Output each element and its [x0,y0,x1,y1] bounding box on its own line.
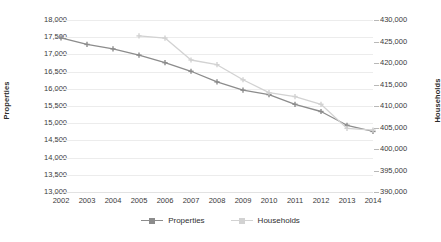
y-axis-left-tick-mark [55,106,60,107]
y-axis-left-tick-mark [55,192,60,193]
y-axis-left-tick-mark [55,54,60,55]
y-axis-left-tick-mark [55,89,60,90]
data-point-marker [84,42,89,47]
y-axis-right-tick-label: 430,000 [380,16,407,24]
legend-item-households[interactable]: Households [231,216,300,225]
data-point-marker [162,60,167,65]
y-axis-right-tick-mark [374,85,379,86]
data-point-marker [240,88,245,93]
y-axis-left-tick-mark [55,158,60,159]
chart-legend: PropertiesHouseholds [0,216,441,225]
series-households [136,33,375,132]
data-point-marker [240,77,245,82]
x-axis-tick-label: 2014 [353,197,393,205]
y-axis-left-tick-mark [55,175,60,176]
y-axis-right-tick-label: 400,000 [380,145,407,153]
y-axis-right-tick-mark [374,63,379,64]
legend-label: Properties [168,216,204,225]
y-axis-right-title: Households [433,71,441,131]
y-axis-right-tick-mark [374,128,379,129]
legend-item-properties[interactable]: Properties [141,216,204,225]
y-axis-right-tick-mark [374,106,379,107]
data-point-marker [136,52,141,57]
y-axis-right-tick-mark [374,42,379,43]
dual-axis-line-chart: Properties Households 18,00017,50017,000… [0,0,441,242]
y-axis-right-tick-label: 420,000 [380,59,407,67]
series-properties [58,35,375,134]
y-axis-right-tick-mark [374,20,379,21]
series-line [61,38,373,132]
data-point-marker [214,79,219,84]
data-point-marker [136,33,141,38]
data-point-marker [110,46,115,51]
y-axis-right-tick-label: 425,000 [380,38,407,46]
legend-label: Households [258,216,300,225]
legend-swatch-icon [141,217,163,225]
gridline [61,192,373,193]
y-axis-left-title: Properties [2,71,11,131]
plot-area [61,20,373,192]
data-point-marker [292,94,297,99]
y-axis-right-tick-label: 390,000 [380,188,407,196]
legend-swatch-icon [231,217,253,225]
data-point-marker [188,69,193,74]
series-layer [61,20,373,192]
y-axis-left-tick-mark [55,20,60,21]
y-axis-right-tick-mark [374,171,379,172]
y-axis-left-tick-mark [55,140,60,141]
y-axis-right-tick-label: 415,000 [380,81,407,89]
data-point-marker [318,109,323,114]
y-axis-right-tick-label: 405,000 [380,124,407,132]
series-line [139,36,373,130]
y-axis-left-tick-mark [55,123,60,124]
data-point-marker [214,62,219,67]
y-axis-right-tick-label: 395,000 [380,167,407,175]
y-axis-right-tick-mark [374,192,379,193]
data-point-marker [292,102,297,107]
y-axis-right-tick-label: 410,000 [380,102,407,110]
y-axis-left-tick-mark [55,72,60,73]
y-axis-right-tick-mark [374,149,379,150]
